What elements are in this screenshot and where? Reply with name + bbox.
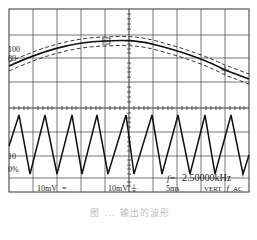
figure-caption: 图 ... 输出的波形 — [80, 206, 180, 219]
level-label-80: 80 — [8, 55, 16, 63]
falling-edge-icon: ƒ — [226, 185, 230, 193]
trigger-coupling-readout: AC — [233, 186, 243, 193]
cursor-marker-right — [221, 66, 229, 74]
level-label-10: 10 — [8, 153, 16, 161]
ch1-coupling-readout: = — [62, 185, 67, 193]
ch1-scale-readout: 10mV — [37, 185, 57, 193]
level-label-100: 100 — [8, 46, 20, 54]
ch2-scale-readout: 10mV — [108, 185, 128, 193]
cursor-marker-left — [103, 37, 110, 45]
frequency-label: f= — [167, 174, 176, 183]
frequency-value: 2.50000kHz — [182, 173, 231, 183]
trigger-source-readout: VERT — [204, 186, 222, 193]
timebase-readout: 5ms — [166, 185, 179, 193]
level-label-0-percent: 0% — [8, 166, 19, 174]
ground-symbol-icon: ⏚ — [130, 185, 138, 193]
